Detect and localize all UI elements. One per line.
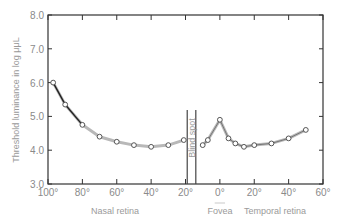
data-point-marker [200, 143, 205, 148]
data-point-marker [132, 143, 137, 148]
data-point-marker [217, 117, 222, 122]
data-point-marker [242, 144, 247, 149]
y-tick-label: 7.0 [30, 44, 44, 55]
x-tick-label: 40° [144, 187, 159, 198]
data-point-marker [205, 138, 210, 143]
x-label-temporal: Temporal retina [244, 206, 306, 216]
data-point-marker [233, 141, 238, 146]
y-tick-label: 5.0 [30, 111, 44, 122]
data-point-marker [97, 134, 102, 139]
threshold-luminance-chart: 3.04.05.06.07.08.0 100°80°60°40°20°0°20°… [0, 0, 347, 223]
x-tick-label: 60° [109, 187, 124, 198]
y-tick-label: 4.0 [30, 145, 44, 156]
data-markers [51, 80, 308, 149]
data-point-marker [51, 80, 56, 85]
x-tick-label: 80° [75, 187, 90, 198]
x-tick-label: 0° [215, 187, 225, 198]
axes-frame [48, 15, 323, 184]
data-point-marker [252, 143, 257, 148]
data-point-marker [226, 136, 231, 141]
y-axis-title: Threshold luminance in log μμL [11, 37, 21, 162]
data-point-marker [181, 138, 186, 143]
data-point-marker [269, 141, 274, 146]
curve-nasal [53, 83, 184, 147]
data-point-marker [63, 102, 68, 107]
y-axis-ticks: 3.04.05.06.07.08.0 [30, 10, 323, 190]
data-point-marker [303, 128, 308, 133]
data-point-marker [114, 139, 119, 144]
blind-spot-annotation: Blind spot [187, 110, 197, 184]
x-label-fovea: Fovea [207, 206, 232, 216]
blind-spot-label: Blind spot [187, 118, 197, 158]
data-point-marker [286, 136, 291, 141]
x-tick-label: 20° [178, 187, 193, 198]
y-tick-label: 6.0 [30, 78, 44, 89]
x-tick-label: 60° [315, 187, 330, 198]
data-point-marker [166, 143, 171, 148]
data-curves [53, 83, 306, 147]
x-axis-ticks: 100°80°60°40°20°0°20°40°60° [38, 15, 331, 198]
x-tick-label: 20° [247, 187, 262, 198]
x-tick-label: 100° [38, 187, 59, 198]
x-tick-label: 40° [281, 187, 296, 198]
plot-frame [48, 15, 323, 184]
y-tick-label: 8.0 [30, 10, 44, 21]
data-point-marker [80, 122, 85, 127]
data-point-marker [149, 144, 154, 149]
x-label-nasal: Nasal retina [91, 206, 139, 216]
